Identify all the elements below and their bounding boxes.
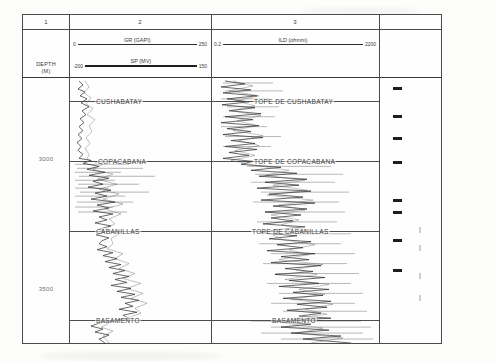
sample-tick [393, 239, 402, 242]
formation-label-basamento-ild: BASAMENTO [271, 317, 317, 324]
gr-scale-bar: 0 GR (GAPI) 250 [73, 41, 207, 47]
depth-header-title: DEPTH [36, 61, 56, 67]
ild-scale-max: 2200 [365, 41, 376, 47]
log-frame: 1 2 3 DEPTH (M) 0 GR (GAPI) [22, 14, 442, 344]
sp-scale-bar: -200 SP (MV) 150 [73, 63, 207, 69]
sample-tick [393, 137, 402, 140]
column-number-4 [379, 15, 441, 29]
formation-label-tope-copacabana: TOPE DE COPACABANA [253, 158, 336, 165]
sample-tick [393, 269, 402, 272]
depth-label: 3500 [23, 286, 69, 292]
formation-label-tope-cushabatay: TOPE DE CUSHABATAY [253, 98, 334, 105]
formation-label-cabanillas: CABANILLAS [95, 228, 141, 235]
formation-label-cushabatay: CUSHABATAY [95, 98, 143, 105]
ild-curve [211, 77, 379, 343]
sample-tick [393, 199, 402, 202]
gr-sp-curve [69, 77, 211, 343]
log-plot-body: 3000 3500 [23, 77, 441, 343]
gr-scale-min: 0 [73, 41, 76, 47]
ild-scale-title: ILD (ohmm) [223, 37, 363, 43]
sp-scale-min: -200 [73, 63, 83, 69]
gr-scale-title: GR (GAPI) [78, 37, 197, 43]
sample-faint-mark [419, 295, 421, 301]
column-number-row: 1 2 3 [23, 15, 441, 30]
column-number-3: 3 [211, 15, 379, 29]
sample-tick [393, 211, 402, 214]
sp-scale-max: 150 [199, 63, 207, 69]
scale-header-row: DEPTH (M) 0 GR (GAPI) 250 -200 [23, 29, 441, 78]
sample-faint-mark [419, 273, 421, 279]
scanned-log-sheet: 1 2 3 DEPTH (M) 0 GR (GAPI) [0, 0, 495, 362]
sample-faint-mark [419, 245, 421, 251]
gr-sp-track: CUSHABATAY COPACABANA CABANILLAS BASAMEN… [69, 77, 211, 343]
gr-scale-max: 250 [199, 41, 207, 47]
scan-artifact [40, 352, 220, 360]
sp-scale-title: SP (MV) [85, 58, 197, 64]
formation-label-basamento: BASAMENTO [95, 317, 141, 324]
sample-track [379, 77, 441, 343]
column-number-2: 2 [69, 15, 211, 29]
depth-label: 3000 [23, 156, 69, 162]
formation-label-copacabana: COPACABANA [97, 158, 147, 165]
ild-scale-bar: 0.2 ILD (ohmm) 2200 [214, 41, 376, 47]
sample-tick [393, 115, 402, 118]
ild-scale-min: 0.2 [214, 41, 221, 47]
ild-track: TOPE DE CUSHABATAY TOPE DE COPACABANA TO… [211, 77, 379, 343]
sample-tick [393, 161, 402, 164]
sample-faint-mark [419, 227, 421, 233]
depth-header-units: (M) [42, 68, 51, 74]
sample-tick [393, 87, 402, 90]
column-number-1: 1 [23, 15, 69, 29]
formation-label-tope-cabanillas: TOPE DE CABANILLAS [251, 228, 330, 235]
depth-track: 3000 3500 [23, 77, 69, 343]
